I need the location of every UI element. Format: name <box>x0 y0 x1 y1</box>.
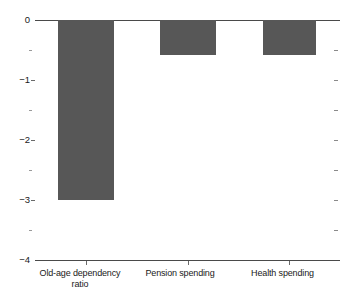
bar-old-age-dependency-ratio <box>58 20 114 200</box>
y-tick-right-1 <box>334 80 338 81</box>
y-tick-right-1_5 <box>334 110 338 111</box>
x-tick-health-spending <box>289 261 290 265</box>
y-axis-label-3: −3 <box>8 195 30 205</box>
y-minor-tick-left-2_5 <box>29 170 32 171</box>
y-minor-tick-left-0_5 <box>29 50 32 51</box>
bar-pension-spending <box>160 20 216 55</box>
x-axis-label-old-age-dependency-ratio: Old-age dependency ratio <box>20 268 140 290</box>
y-axis-label-2: −2 <box>8 135 30 145</box>
y-axis-label-1: −1 <box>8 75 30 85</box>
bar-chart: 0 −1 −2 −3 −4 Old-age dependency ratio P… <box>0 0 349 303</box>
y-tick-right-2_5 <box>334 170 338 171</box>
y-major-tick-1 <box>31 80 35 81</box>
y-minor-tick-left-1_5 <box>29 110 32 111</box>
y-axis-label-0: 0 <box>8 15 30 25</box>
y-tick-right-2 <box>334 140 338 141</box>
y-major-tick-3 <box>31 200 35 201</box>
x-tick-old-age-dependency-ratio <box>86 261 87 265</box>
y-tick-right-0_5 <box>334 50 338 51</box>
x-axis-label-pension-spending: Pension spending <box>130 268 230 279</box>
x-axis-label-health-spending: Health spending <box>235 268 330 279</box>
y-tick-right-3_5 <box>334 230 338 231</box>
y-axis-label-4: −4 <box>8 255 30 265</box>
y-major-tick-2 <box>31 140 35 141</box>
y-tick-right-3 <box>334 200 338 201</box>
y-minor-tick-left-3_5 <box>29 230 32 231</box>
x-tick-pension-spending <box>188 261 189 265</box>
bar-health-spending <box>263 20 316 55</box>
